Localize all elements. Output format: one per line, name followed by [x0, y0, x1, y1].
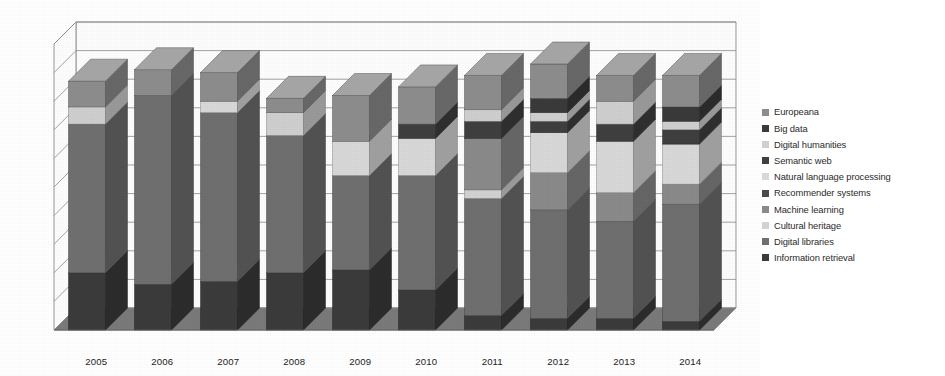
chart-legend: EuropeanaBig dataDigital humanitiesSeman… [762, 104, 944, 266]
x-axis-tick-label: 2008 [283, 356, 305, 367]
legend-swatch-icon [762, 109, 769, 116]
legend-item[interactable]: Digital humanities [762, 136, 944, 152]
legend-swatch-icon [762, 125, 769, 132]
legend-swatch-icon [762, 157, 769, 164]
legend-item-label: Cultural heritage [774, 221, 841, 230]
legend-item-label: Information retrieval [774, 253, 855, 262]
legend-swatch-icon [762, 254, 769, 261]
chart-column [399, 65, 458, 330]
chart-column [267, 76, 326, 330]
x-axis-tick-label: 2014 [679, 356, 701, 367]
legend-swatch-icon [762, 141, 769, 148]
legend-item[interactable]: Digital libraries [762, 234, 944, 250]
chart-column [333, 73, 392, 330]
legend-item[interactable]: Recommender systems [762, 185, 944, 201]
x-axis-tick-label: 2009 [349, 356, 371, 367]
legend-swatch-icon [762, 190, 769, 197]
x-axis-tick-label: 2013 [613, 356, 635, 367]
legend-item[interactable]: Europeana [762, 104, 944, 120]
legend-item-label: Digital libraries [774, 237, 834, 246]
chart-column [663, 53, 722, 330]
legend-swatch-icon [762, 238, 769, 245]
x-axis-tick-label: 2012 [547, 356, 569, 367]
legend-item[interactable]: Information retrieval [762, 250, 944, 266]
chart-column [465, 53, 524, 330]
x-axis-tick-labels: 2005200620072008200920102011201220132014 [0, 342, 760, 362]
legend-item-label: Big data [774, 124, 808, 133]
legend-item-label: Semantic web [774, 156, 832, 165]
chart-plot-area [0, 0, 760, 376]
x-axis-tick-label: 2010 [415, 356, 437, 367]
legend-item[interactable]: Cultural heritage [762, 217, 944, 233]
x-axis-tick-label: 2006 [151, 356, 173, 367]
legend-swatch-icon [762, 173, 769, 180]
stacked-column-chart-3d [0, 0, 760, 376]
legend-item[interactable]: Machine learning [762, 201, 944, 217]
chart-column [531, 42, 590, 330]
legend-item-label: Natural language processing [774, 172, 891, 181]
chart-column [201, 51, 260, 330]
x-axis-tick-label: 2005 [85, 356, 107, 367]
x-axis-tick-label: 2011 [482, 356, 503, 367]
legend-item-label: Digital humanities [774, 140, 846, 149]
chart-column [69, 59, 128, 330]
legend-item[interactable]: Semantic web [762, 153, 944, 169]
legend-item-label: Recommender systems [774, 188, 871, 197]
legend-swatch-icon [762, 222, 769, 229]
legend-item-label: Machine learning [774, 205, 844, 214]
legend-swatch-icon [762, 206, 769, 213]
legend-item[interactable]: Natural language processing [762, 169, 944, 185]
chart-column [135, 48, 194, 330]
legend-item[interactable]: Big data [762, 120, 944, 136]
legend-item-label: Europeana [774, 107, 819, 116]
chart-column [597, 53, 656, 330]
x-axis-tick-label: 2007 [217, 356, 239, 367]
